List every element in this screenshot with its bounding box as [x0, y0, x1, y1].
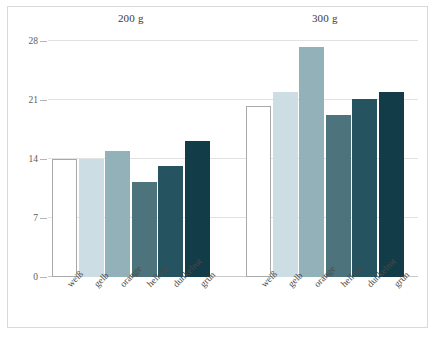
bar-0-dunkelrot	[158, 166, 183, 277]
y-tick-mark-0	[40, 277, 47, 278]
y-tick-label-14: 14	[16, 154, 38, 164]
y-tick-label-21: 21	[16, 95, 38, 105]
chart-figure: 200 g300 g 07142128 weißgelborangehellro…	[0, 0, 436, 337]
bar-0-weiß	[52, 159, 77, 277]
y-tick-label-28: 28	[16, 36, 38, 46]
bar-0-gelb	[79, 159, 104, 277]
bar-1-orange	[299, 47, 324, 277]
bar-1-hellrot	[326, 115, 351, 277]
y-tick-mark-7	[40, 218, 47, 219]
y-tick-label-7: 7	[16, 213, 38, 223]
y-tick-label-0: 0	[16, 272, 38, 282]
bar-1-gelb	[273, 92, 298, 277]
plot-area	[48, 41, 418, 277]
y-tick-mark-21	[40, 100, 47, 101]
bar-0-hellrot	[132, 182, 157, 277]
gridline-28	[48, 40, 418, 41]
bar-1-dunkelrot	[352, 99, 377, 277]
bar-1-grün	[379, 92, 404, 277]
y-tick-mark-28	[40, 41, 47, 42]
bar-1-weiß	[246, 106, 271, 277]
group-header-1: 300 g	[246, 12, 404, 24]
bar-0-orange	[105, 151, 130, 277]
group-header-0: 200 g	[52, 12, 210, 24]
y-tick-mark-14	[40, 159, 47, 160]
